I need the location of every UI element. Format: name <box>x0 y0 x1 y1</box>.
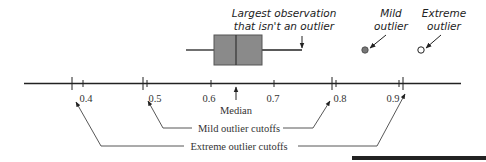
extreme-outlier-arrow <box>426 35 441 48</box>
mild-cutoff-connector-left <box>148 101 192 128</box>
median-label: Median <box>220 105 253 116</box>
largest-observation-label-line2: that isn't an outlier <box>234 20 335 32</box>
mild-outlier-label-line1: Mild <box>380 7 402 19</box>
tick-label-0.7: 0.7 <box>266 93 279 104</box>
mild-cutoffs-label: Mild outlier cutoffs <box>198 123 280 134</box>
extreme-outlier-point <box>418 47 424 53</box>
extreme-outlier-label: Extreme outlier <box>422 7 466 32</box>
mild-cutoff-connector-right <box>283 101 330 128</box>
extreme-outlier-label-line2: outlier <box>427 20 461 32</box>
box-plot <box>186 35 302 65</box>
largest-observation-label: Largest observation that isn't an outlie… <box>232 7 337 32</box>
tick-label-0.9: 0.9 <box>386 93 399 104</box>
bottom-bar-divider <box>352 156 486 160</box>
tick-label-0.8: 0.8 <box>333 93 346 104</box>
mild-outlier-label-line2: outlier <box>374 20 408 32</box>
tick-label-0.6: 0.6 <box>202 93 215 104</box>
extreme-cutoff-connector-left <box>76 102 184 146</box>
largest-observation-label-line1: Largest observation <box>232 7 337 19</box>
extreme-outlier-label-line1: Extreme <box>422 7 466 19</box>
mild-outlier-point <box>362 47 368 53</box>
mild-outlier-label: Mild outlier <box>374 7 408 32</box>
interquartile-box <box>214 35 262 65</box>
boxplot-figure: Largest observation that isn't an outlie… <box>0 0 486 162</box>
extreme-cutoffs-label: Extreme outlier cutoffs <box>190 141 287 152</box>
tick-label-0.5: 0.5 <box>148 93 161 104</box>
mild-outlier-arrow <box>370 35 386 48</box>
tick-label-0.4: 0.4 <box>79 93 93 104</box>
